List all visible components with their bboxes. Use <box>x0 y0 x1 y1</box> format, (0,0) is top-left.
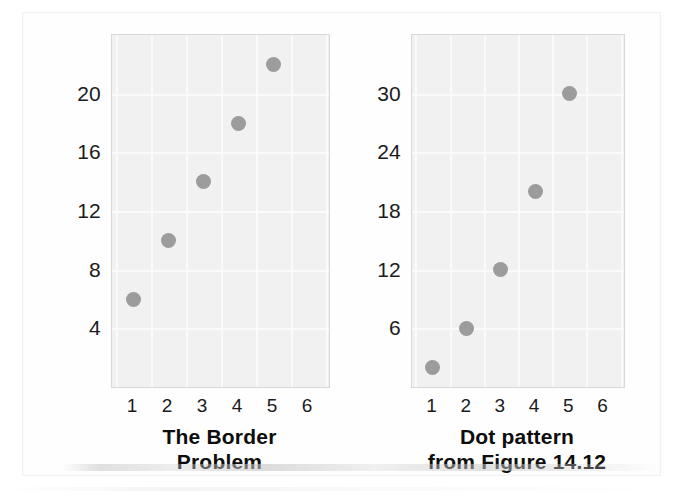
data-point <box>493 262 508 277</box>
x-axis-tick-label: 2 <box>454 396 478 415</box>
x-axis-tick-label: 6 <box>295 396 319 415</box>
x-axis-tick-label: 3 <box>488 396 512 415</box>
plot-area-left <box>111 34 330 388</box>
y-axis-tick-label: 4 <box>49 317 101 338</box>
x-axis-tick-label: 6 <box>590 396 614 415</box>
gridline-horizontal <box>112 211 329 213</box>
y-axis-tick-label: 8 <box>49 259 101 280</box>
y-axis-tick-label: 24 <box>349 141 401 162</box>
data-point <box>231 116 246 131</box>
data-point <box>126 292 141 307</box>
data-point <box>425 360 440 375</box>
y-axis-tick-label: 30 <box>349 83 401 104</box>
caption-right-line1: Dot pattern <box>351 424 681 449</box>
caption-left-line1: The Border <box>51 424 388 449</box>
data-point <box>196 174 211 189</box>
y-axis-tick-label: 16 <box>49 141 101 162</box>
y-axis-tick-label: 12 <box>349 259 401 280</box>
gridline-horizontal <box>112 270 329 272</box>
data-point <box>161 233 176 248</box>
data-point <box>459 321 474 336</box>
y-axis-tick-label: 12 <box>49 200 101 221</box>
x-axis-tick-label: 5 <box>556 396 580 415</box>
gridline-horizontal <box>412 94 624 96</box>
scan-artifact-band-lower <box>0 487 681 491</box>
x-axis-tick-label: 3 <box>190 396 214 415</box>
y-axis-tick-label: 6 <box>349 317 401 338</box>
gridline-horizontal <box>112 152 329 154</box>
gridline-horizontal <box>412 152 624 154</box>
x-axis-tick-label: 1 <box>120 396 144 415</box>
gridline-horizontal <box>412 270 624 272</box>
gridline-horizontal <box>112 94 329 96</box>
x-axis-tick-label: 2 <box>155 396 179 415</box>
x-axis-tick-label: 4 <box>225 396 249 415</box>
figure-frame: 48121620 123456 The Border Problem 61218… <box>22 12 661 476</box>
x-axis-tick-label: 5 <box>260 396 284 415</box>
plot-area-right <box>411 34 625 388</box>
gridline-horizontal <box>112 328 329 330</box>
x-axis-tick-label: 1 <box>420 396 444 415</box>
data-point <box>266 57 281 72</box>
gridline-horizontal <box>412 328 624 330</box>
data-point <box>528 184 543 199</box>
y-axis-tick-label: 18 <box>349 200 401 221</box>
x-axis-tick-label: 4 <box>522 396 546 415</box>
data-point <box>562 86 577 101</box>
scan-artifact-band <box>63 464 663 471</box>
y-axis-tick-label: 20 <box>49 83 101 104</box>
gridline-horizontal <box>412 211 624 213</box>
